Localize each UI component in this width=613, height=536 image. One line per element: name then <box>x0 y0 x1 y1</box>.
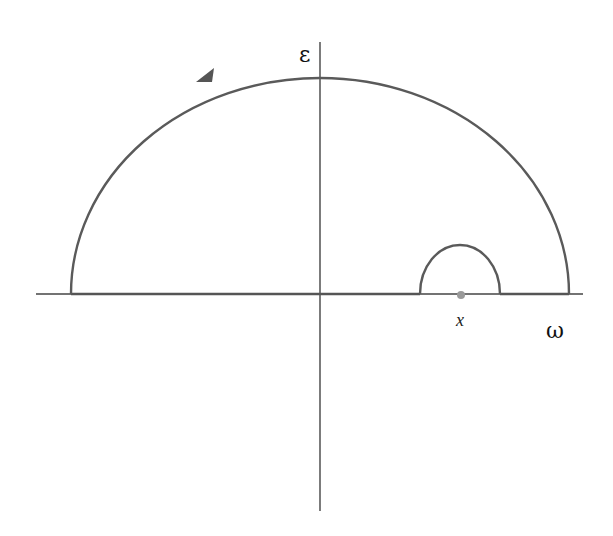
horizontal-axis-label: ω <box>546 318 564 343</box>
small-semicircle <box>420 245 500 294</box>
vertical-axis-label: ε <box>299 42 310 67</box>
pole-label: x <box>455 310 464 330</box>
pole-dot <box>457 291 465 299</box>
direction-arrow-icon <box>196 68 214 82</box>
contour-diagram: ε ω x <box>0 0 613 536</box>
